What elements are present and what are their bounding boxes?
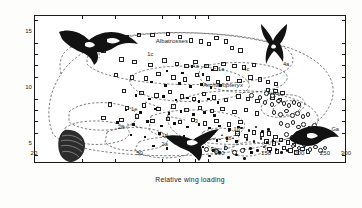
group-label: 4b — [225, 135, 231, 141]
data-point — [227, 156, 230, 159]
data-point — [206, 76, 210, 80]
data-point — [217, 101, 220, 104]
data-point — [213, 114, 216, 117]
data-point — [178, 120, 182, 124]
data-point — [290, 113, 295, 118]
data-point — [279, 138, 283, 142]
data-point — [232, 64, 236, 68]
hummingbird-silhouette — [161, 126, 221, 162]
group-label: Albatrosses — [156, 38, 188, 44]
data-point — [286, 149, 289, 152]
data-point — [150, 119, 154, 123]
group-label: 1e — [131, 106, 137, 112]
data-point — [210, 109, 214, 113]
group-label: Archaeopteryx — [203, 82, 243, 88]
data-point — [292, 100, 297, 105]
grouse-silhouette — [55, 128, 91, 162]
data-point — [297, 102, 302, 107]
y-tick-label: 5 — [20, 140, 32, 146]
data-point — [252, 130, 256, 134]
data-point — [221, 134, 223, 136]
x-axis-title: Relative wing loading — [155, 176, 224, 183]
data-point — [282, 101, 287, 106]
data-point — [178, 82, 181, 85]
y-tick-label: 10 — [20, 84, 32, 90]
data-point — [250, 151, 253, 154]
data-point — [204, 64, 208, 68]
data-point — [272, 141, 276, 145]
data-point — [162, 95, 165, 98]
data-point — [156, 72, 160, 76]
data-point — [192, 97, 196, 101]
data-point — [146, 120, 149, 123]
group-label: Auks — [267, 90, 280, 96]
data-point — [224, 98, 228, 102]
data-point — [195, 73, 199, 77]
data-point — [114, 73, 118, 77]
data-point — [198, 100, 201, 103]
data-point — [156, 107, 160, 111]
data-point — [224, 145, 226, 147]
data-point — [214, 119, 218, 123]
data-point — [186, 97, 189, 100]
data-point — [148, 63, 152, 67]
data-point — [171, 104, 175, 108]
data-point — [139, 91, 143, 95]
data-point — [244, 108, 248, 112]
group-label: Aa — [192, 63, 199, 69]
x-tick-label: 100 — [214, 150, 224, 156]
data-point — [214, 36, 218, 40]
data-point — [280, 151, 283, 154]
data-point — [184, 64, 188, 68]
data-point — [166, 32, 170, 36]
x-tick-label: 150 — [261, 150, 271, 156]
data-point — [248, 129, 251, 132]
data-layer: AlbatrossesArchaeopteryxAuksFrGaAa1a1b1c… — [35, 16, 345, 162]
data-point — [273, 135, 277, 139]
data-point — [148, 98, 151, 101]
data-point — [227, 122, 231, 126]
data-point — [267, 128, 270, 131]
x-tick-label: 50 — [136, 150, 143, 156]
data-point — [181, 72, 184, 75]
data-point — [189, 85, 192, 88]
data-point — [168, 112, 171, 115]
x-tick-label: 20 — [31, 150, 38, 156]
data-point — [261, 130, 264, 133]
data-point — [125, 109, 128, 112]
data-point — [168, 90, 172, 94]
data-point — [232, 137, 234, 139]
data-point — [280, 91, 284, 95]
group-label: 2b — [118, 124, 124, 130]
data-point — [173, 122, 176, 125]
data-point — [224, 39, 228, 43]
data-point — [258, 77, 262, 81]
data-point — [122, 89, 126, 93]
data-point — [202, 73, 205, 76]
data-point — [162, 58, 166, 62]
data-point — [226, 76, 230, 80]
data-point — [189, 38, 193, 42]
plot-frame: AlbatrossesArchaeopteryxAuksFrGaAa1a1b1c… — [34, 15, 346, 163]
group-label: 1a — [218, 66, 224, 72]
data-point — [144, 76, 148, 80]
group-label: 1c — [147, 51, 153, 57]
data-point — [263, 100, 268, 105]
data-point — [267, 131, 271, 135]
data-point — [152, 145, 155, 148]
data-point — [276, 99, 281, 104]
data-point — [166, 117, 170, 121]
data-point — [238, 48, 242, 52]
group-label: 4c — [243, 66, 249, 72]
data-point — [238, 120, 242, 124]
data-point — [135, 94, 138, 97]
data-point — [235, 131, 239, 135]
data-point — [184, 108, 188, 112]
data-point — [199, 39, 203, 43]
data-point — [198, 106, 202, 110]
data-point — [255, 111, 259, 115]
data-point — [183, 77, 187, 81]
data-point — [236, 94, 240, 98]
data-point — [260, 137, 263, 140]
data-point — [212, 95, 216, 99]
